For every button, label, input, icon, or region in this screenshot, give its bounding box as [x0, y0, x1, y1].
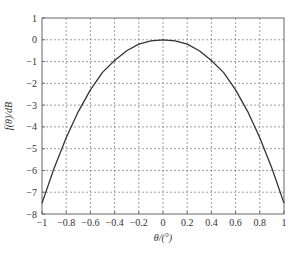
y-tick-label: −3	[26, 100, 37, 111]
x-tick-label: −1	[37, 217, 48, 228]
y-tick-label: −6	[26, 165, 37, 176]
y-tick-label: 1	[32, 13, 37, 24]
x-tick-label: 0.2	[181, 217, 194, 228]
y-tick-label: −8	[26, 209, 37, 220]
x-tick-label: 0.6	[229, 217, 242, 228]
x-tick-label: 0.8	[254, 217, 267, 228]
x-tick-label: −0.4	[106, 217, 124, 228]
y-axis-label: f(θ)/dB	[3, 102, 15, 130]
x-tick-label: 0.4	[205, 217, 218, 228]
x-tick-label: −0.6	[81, 217, 99, 228]
y-tick-label: −5	[26, 143, 37, 154]
y-tick-label: −1	[26, 56, 37, 67]
y-tick-label: 0	[32, 34, 37, 45]
y-tick-label: −4	[26, 121, 37, 132]
line-chart: −1−0.8−0.6−0.4−0.200.20.40.60.8110−1−2−3…	[0, 0, 300, 253]
x-axis-label: θ/(°)	[154, 232, 173, 244]
x-tick-label: −0.8	[57, 217, 75, 228]
y-tick-label: −7	[26, 187, 37, 198]
x-tick-label: 0	[161, 217, 166, 228]
x-tick-label: −0.2	[130, 217, 148, 228]
y-tick-label: −2	[26, 78, 37, 89]
x-tick-label: 1	[282, 217, 287, 228]
